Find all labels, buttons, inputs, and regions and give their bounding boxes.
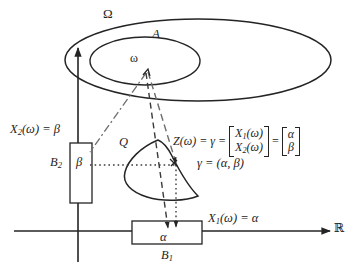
region-q-label: Q <box>119 136 128 149</box>
sample-space-ellipse <box>65 19 331 101</box>
borel-set-b1-label: B1 <box>161 249 173 263</box>
matrix-row-x2: X2(ω) <box>235 141 263 155</box>
matrix-row-beta: β <box>288 141 294 154</box>
z-omega-lhs: Z(ω) = γ = <box>173 135 226 147</box>
probability-mapping-figure: Ω A ω X2(ω) = β B2 β Q Z(ω) = γ = X1(ω) … <box>0 0 353 270</box>
random-vector-equation: Z(ω) = γ = X1(ω) X2(ω) = α β <box>173 126 300 157</box>
omega-to-alpha-dashed-line <box>146 73 168 228</box>
real-line-label: ℝ <box>334 222 344 235</box>
event-label: A <box>152 27 160 40</box>
x2-symbol: X <box>10 122 18 136</box>
equation-equals-sign: = <box>272 135 279 147</box>
x1-rest: (ω) = α <box>220 211 258 225</box>
matrix-of-values: α β <box>282 127 300 156</box>
matrix-row-x1: X1(ω) <box>235 127 263 141</box>
b1-subscript: 1 <box>169 253 173 263</box>
borel-set-b2-label: B2 <box>50 156 62 170</box>
outcome-label: ω <box>130 52 138 64</box>
matrix-row-alpha: α <box>288 128 294 141</box>
b1-symbol: B <box>161 248 169 262</box>
b2-symbol: B <box>50 155 58 169</box>
event-ellipse <box>90 37 200 85</box>
b2-subscript: 2 <box>58 160 62 170</box>
x2-rest: (ω) = β <box>22 122 60 136</box>
borel-set-b2-rect <box>70 143 92 203</box>
alpha-value-in-b1: α <box>160 231 167 244</box>
x1-equals-alpha-label: X1(ω) = α <box>208 212 258 226</box>
beta-value-in-b2: β <box>76 156 82 169</box>
sample-space-label: Ω <box>103 7 113 20</box>
x2-equals-beta-label: X2(ω) = β <box>10 123 60 137</box>
gamma-coordinates-label: γ = (α, β) <box>197 157 244 170</box>
x1-symbol: X <box>208 211 216 225</box>
matrix-of-components: X1(ω) X2(ω) <box>229 126 269 157</box>
